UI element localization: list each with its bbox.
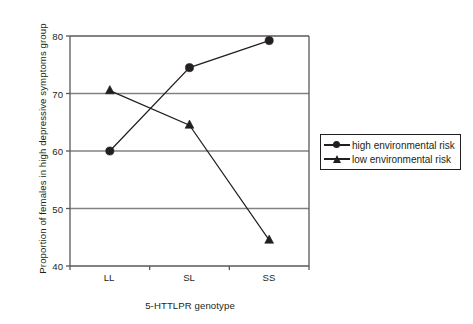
legend-label-high-environmental-risk: high environmental risk [350, 140, 455, 151]
legend-label-low-environmental-risk: low environmental risk [350, 154, 451, 165]
chart-legend: high environmental risk low environmenta… [320, 134, 461, 170]
data-point-SL [185, 64, 193, 72]
y-axis-title: Proportion of females in high depressive… [37, 4, 48, 294]
chart-figure: 80 70 60 50 40 LL SL SS Proportion of fe… [0, 0, 473, 324]
x-tick-label-sl: SL [164, 272, 214, 283]
data-point-SS [265, 37, 273, 45]
legend-item-high-environmental-risk: high environmental risk [324, 138, 455, 152]
x-tick-label-ss: SS [244, 272, 294, 283]
x-tick-label-ll: LL [84, 272, 134, 283]
data-point-LL [106, 147, 114, 155]
legend-item-low-environmental-risk: low environmental risk [324, 152, 455, 166]
x-axis-title: 5-HTTLPR genotype [70, 300, 310, 311]
circle-marker-icon [324, 138, 350, 152]
triangle-marker-icon [324, 152, 350, 166]
